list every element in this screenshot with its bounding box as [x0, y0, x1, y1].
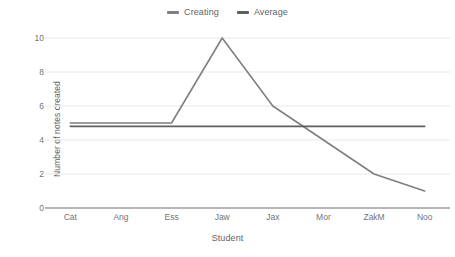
x-tick-label-ang: Ang: [113, 212, 128, 222]
line-chart: CreatingAverage Number of notes created …: [0, 0, 455, 257]
x-tick-label-ess: Ess: [164, 212, 178, 222]
x-tick-label-noo: Noo: [417, 212, 433, 222]
x-tick-label-mor: Mor: [316, 212, 331, 222]
x-tick-label-jax: Jax: [266, 212, 279, 222]
x-axis-title: Student: [0, 233, 455, 243]
x-tick-label-jaw: Jaw: [215, 212, 230, 222]
x-tick-label-cat: Cat: [64, 212, 77, 222]
x-tick-label-zakm: ZakM: [363, 212, 384, 222]
series-line-creating: [70, 38, 424, 191]
